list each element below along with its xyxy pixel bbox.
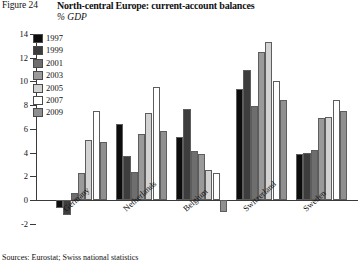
y-axis-tick xyxy=(30,224,36,225)
source-note: Sources: Eurostat; Swiss national statis… xyxy=(2,253,138,262)
legend-swatch xyxy=(33,84,43,93)
legend-swatch xyxy=(33,34,43,43)
bar xyxy=(296,154,303,200)
legend-item: 2009 xyxy=(33,107,103,119)
legend-item: 1999 xyxy=(33,45,103,57)
bar xyxy=(303,153,310,200)
legend-swatch xyxy=(33,46,43,55)
legend-label: 1997 xyxy=(46,33,63,44)
bar xyxy=(280,100,287,200)
legend-label: 2001 xyxy=(46,58,63,69)
figure-units-label: % GDP xyxy=(57,12,87,22)
bar xyxy=(265,42,272,200)
figure-title: North-central Europe: current-account ba… xyxy=(57,0,254,11)
legend-item: 2001 xyxy=(33,58,103,70)
bar xyxy=(160,131,167,200)
bar xyxy=(258,52,265,200)
legend-label: 2007 xyxy=(46,95,63,106)
bar xyxy=(236,89,243,200)
bar xyxy=(93,111,100,200)
bar xyxy=(251,106,258,200)
bar xyxy=(100,142,107,200)
chart-legend: 1997199920012003200520072009 xyxy=(33,33,103,120)
legend-item: 2005 xyxy=(33,83,103,95)
bar xyxy=(333,100,340,200)
bar xyxy=(116,124,123,200)
bar xyxy=(183,109,190,200)
legend-label: 1999 xyxy=(46,45,63,56)
legend-label: 2003 xyxy=(46,70,63,81)
bar xyxy=(213,173,220,200)
legend-label: 2005 xyxy=(46,83,63,94)
chart-plot-area: -202468101214 GermanyNetherlandsBelgiumS… xyxy=(0,30,362,220)
legend-swatch xyxy=(33,59,43,68)
legend-swatch xyxy=(33,96,43,105)
legend-item: 1997 xyxy=(33,33,103,45)
legend-swatch xyxy=(33,108,43,117)
bar xyxy=(123,156,130,200)
bar xyxy=(176,137,183,200)
legend-item: 2003 xyxy=(33,70,103,82)
bar xyxy=(220,200,227,212)
figure-header: Figure 24 North-central Europe: current-… xyxy=(0,0,362,26)
legend-swatch xyxy=(33,71,43,80)
figure-number: Figure 24 xyxy=(2,0,38,10)
bar xyxy=(340,111,347,200)
y-axis-tick-label: -2 xyxy=(2,220,28,228)
bar xyxy=(325,117,332,200)
bar xyxy=(243,70,250,200)
legend-item: 2007 xyxy=(33,95,103,107)
legend-label: 2009 xyxy=(46,107,63,118)
